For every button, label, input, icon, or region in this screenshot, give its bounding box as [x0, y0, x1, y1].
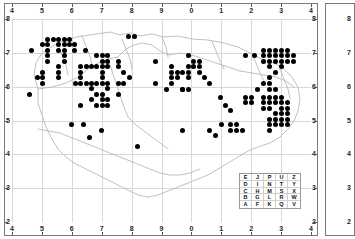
- record-dot: [100, 97, 105, 102]
- axis-tick-mark: [132, 4, 133, 7]
- record-dot: [40, 42, 45, 47]
- record-dot: [291, 53, 296, 58]
- record-dot: [267, 106, 272, 111]
- axis-tick-mark: [314, 222, 317, 223]
- axis-tick-mark: [221, 4, 222, 7]
- record-dot: [261, 81, 266, 86]
- record-dot: [279, 117, 284, 122]
- legend-cell: J: [252, 174, 264, 181]
- record-dot: [73, 81, 78, 86]
- record-dot: [267, 75, 272, 80]
- side-axis-tick-label: 2: [347, 218, 351, 226]
- side-axis-tick-label: 4: [347, 150, 351, 158]
- axis-tick-mark: [314, 87, 317, 88]
- record-dot: [100, 64, 105, 69]
- axis-tick-mark: [251, 4, 252, 7]
- axis-tick-label: 6: [67, 7, 77, 15]
- record-dot: [243, 95, 248, 100]
- record-dot: [228, 128, 233, 133]
- legend-cell: P: [264, 174, 276, 181]
- record-dot: [273, 70, 278, 75]
- record-dot: [267, 81, 272, 86]
- distribution-map-panel: 45678901234 45678901234 8765432 8765432: [4, 3, 318, 236]
- axis-tick-mark: [42, 4, 43, 7]
- legend-cell: M: [264, 188, 276, 195]
- record-dot: [252, 53, 257, 58]
- axis-tick-mark: [281, 4, 282, 7]
- record-dot: [285, 122, 290, 127]
- record-dot: [285, 53, 290, 58]
- record-dot: [169, 81, 174, 86]
- record-dot: [273, 117, 278, 122]
- plot-area: 45678901234 45678901234 8765432 8765432: [5, 4, 317, 235]
- record-dot: [116, 59, 121, 64]
- side-axis-tick-label: 5: [347, 117, 351, 125]
- record-dot: [126, 34, 131, 39]
- record-dot: [267, 48, 272, 53]
- record-dot: [197, 70, 202, 75]
- record-dot: [197, 59, 202, 64]
- record-dot: [84, 64, 89, 69]
- record-dot: [45, 48, 50, 53]
- record-dot: [186, 70, 191, 75]
- legend-cell: H: [252, 188, 264, 195]
- record-dot: [191, 59, 196, 64]
- record-dot: [175, 70, 180, 75]
- record-dot: [291, 59, 296, 64]
- record-dot: [35, 75, 40, 80]
- record-dot: [267, 95, 272, 100]
- axis-tick-label: 1: [216, 7, 226, 15]
- legend-cell: Y: [288, 181, 300, 188]
- record-dot: [267, 117, 272, 122]
- side-axis-tick-label: 7: [347, 49, 351, 57]
- record-dot: [62, 59, 67, 64]
- record-dot: [56, 70, 61, 75]
- record-dot: [51, 37, 56, 42]
- axis-tick-label: 4: [306, 7, 316, 15]
- record-dot: [279, 100, 284, 105]
- axis-tick-mark: [162, 232, 163, 235]
- axis-tick-label: 8: [127, 7, 137, 15]
- axis-tick-mark: [102, 232, 103, 235]
- legend-cell: E: [240, 174, 252, 181]
- record-dot: [62, 42, 67, 47]
- record-dot: [273, 87, 278, 92]
- legend-cell: U: [276, 174, 288, 181]
- record-dot: [40, 70, 45, 75]
- record-dot: [197, 64, 202, 69]
- axis-tick-mark: [5, 222, 8, 223]
- record-dot: [207, 81, 212, 86]
- legend-cell: L: [264, 194, 276, 201]
- record-dot: [121, 81, 126, 86]
- record-dot: [56, 48, 61, 53]
- record-dot: [285, 59, 290, 64]
- record-dot: [105, 59, 110, 64]
- axis-tick-mark: [42, 232, 43, 235]
- record-dot: [243, 53, 248, 58]
- record-dot: [132, 34, 137, 39]
- axis-tick-mark: [5, 154, 8, 155]
- record-dot: [67, 37, 72, 42]
- axis-tick-mark: [314, 19, 317, 20]
- record-dot: [45, 59, 50, 64]
- record-dot: [240, 128, 245, 133]
- axis-tick-mark: [132, 232, 133, 235]
- record-dot: [273, 122, 278, 127]
- record-dot: [279, 111, 284, 116]
- record-dot: [285, 111, 290, 116]
- record-dot: [83, 48, 88, 53]
- record-dot: [127, 75, 132, 80]
- record-dot: [273, 48, 278, 53]
- axis-tick-label: 5: [37, 7, 47, 15]
- record-dot: [267, 64, 272, 69]
- legend-cell: R: [276, 194, 288, 201]
- record-dot: [29, 48, 34, 53]
- record-dot: [279, 122, 284, 127]
- adjacent-map-panel: 8765432: [325, 3, 355, 236]
- record-dot: [180, 128, 185, 133]
- legend-cell: C: [240, 188, 252, 195]
- axis-tick-mark: [191, 232, 192, 235]
- axis-tick-label: 0: [186, 7, 196, 15]
- legend-cell: A: [240, 201, 252, 208]
- record-dot: [116, 92, 121, 97]
